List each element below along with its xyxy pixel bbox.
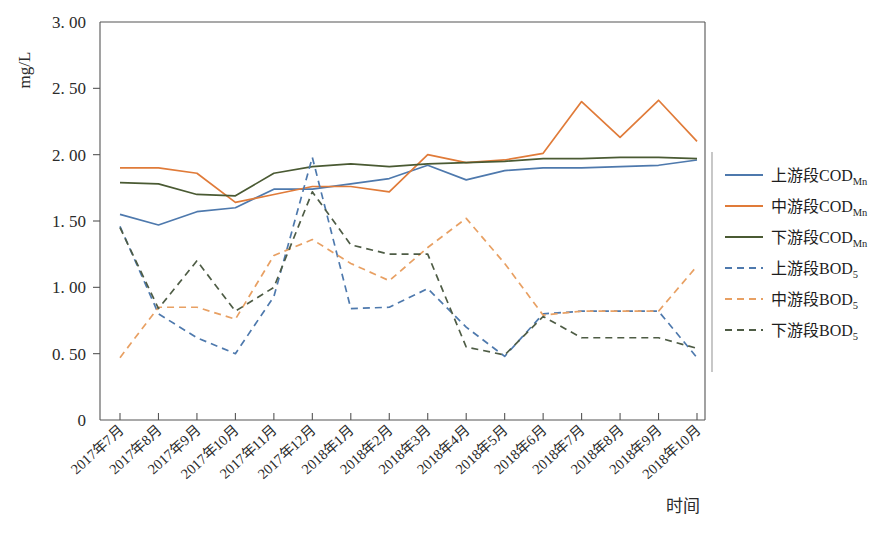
legend-label-0: 上游段CODMn <box>771 167 868 187</box>
legend-label-main-0: 上游段COD <box>771 167 853 184</box>
legend-label-main-3: 上游段BOD <box>771 260 853 277</box>
y-tick-label: 0. 50 <box>52 345 86 364</box>
legend-label-sub-2: Mn <box>853 238 868 249</box>
line-chart: 00. 501. 001. 502. 002. 503. 00mg/L2017年… <box>0 0 891 544</box>
series-line-5 <box>120 192 697 355</box>
y-tick-label: 2. 50 <box>52 79 86 98</box>
legend-label-3: 上游段BOD5 <box>771 260 858 280</box>
series-line-4 <box>120 218 697 357</box>
series-line-3 <box>120 157 697 357</box>
y-tick-label: 2. 00 <box>52 146 86 165</box>
legend-label-sub-4: 5 <box>853 300 858 311</box>
legend-label-main-4: 中游段BOD <box>771 291 853 308</box>
legend-label-4: 中游段BOD5 <box>771 291 858 311</box>
y-axis-title: mg/L <box>15 52 34 89</box>
legend-label-sub-5: 5 <box>853 331 858 342</box>
legend-label-main-2: 下游段COD <box>771 229 853 246</box>
legend-label-main-5: 下游段BOD <box>771 322 853 339</box>
legend-label-1: 中游段CODMn <box>771 198 868 218</box>
x-axis-title: 时间 <box>666 497 700 516</box>
legend-label-2: 下游段CODMn <box>771 229 868 249</box>
y-tick-label: 1. 00 <box>52 278 86 297</box>
legend-label-sub-0: Mn <box>853 176 868 187</box>
series-line-2 <box>120 157 697 195</box>
chart-container: 00. 501. 001. 502. 002. 503. 00mg/L2017年… <box>0 0 891 544</box>
series-line-1 <box>120 100 697 202</box>
y-tick-label: 0 <box>78 411 87 430</box>
y-tick-label: 3. 00 <box>52 13 86 32</box>
legend-label-sub-1: Mn <box>853 207 868 218</box>
legend-label-sub-3: 5 <box>853 269 858 280</box>
series-line-0 <box>120 160 697 225</box>
legend-label-5: 下游段BOD5 <box>771 322 858 342</box>
y-tick-label: 1. 50 <box>52 212 86 231</box>
legend-label-main-1: 中游段COD <box>771 198 853 215</box>
